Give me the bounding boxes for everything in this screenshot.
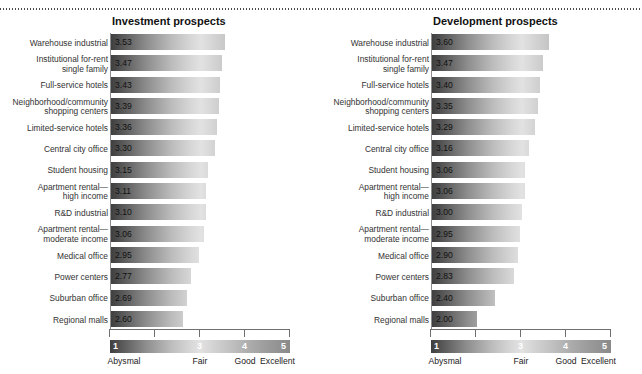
- value-bar: 3.06: [432, 183, 525, 199]
- bar-value-label: 3.40: [436, 80, 453, 90]
- plot-area: Warehouse industrial3.60Institutional fo…: [321, 0, 642, 374]
- category-label: Regional malls: [0, 316, 108, 326]
- category-label: R&D industrial: [279, 209, 429, 219]
- category-label: Full-service hotels: [0, 81, 108, 91]
- category-label: Warehouse industrial: [0, 39, 108, 49]
- bar-value-label: 3.00: [436, 207, 453, 217]
- panel-development-prospects: Development prospects Warehouse industri…: [321, 0, 642, 374]
- bar-value-label: 3.15: [115, 165, 132, 175]
- legend-number: 3: [518, 341, 523, 351]
- value-bar: 3.06: [432, 162, 525, 178]
- value-bar: 2.95: [432, 226, 520, 242]
- scale-label: Excellent: [260, 356, 295, 366]
- value-bar: 3.53: [111, 34, 225, 50]
- value-bar: 2.00: [432, 311, 477, 327]
- legend-number: 4: [242, 341, 247, 351]
- category-label: Apartment rental— high income: [279, 183, 429, 202]
- value-bar: 3.06: [111, 226, 204, 242]
- scale-label: Fair: [514, 356, 529, 366]
- x-axis-tick: [610, 329, 611, 337]
- bar-row: Apartment rental— moderate income2.95: [321, 225, 642, 246]
- category-label: Limited-service hotels: [0, 124, 108, 134]
- bar-value-label: 2.95: [436, 229, 453, 239]
- bar-row: Power centers2.83: [321, 267, 642, 288]
- bar-value-label: 3.06: [436, 186, 453, 196]
- bar-value-label: 3.11: [115, 186, 131, 196]
- x-axis-tick: [289, 329, 290, 337]
- category-label: Central city office: [0, 145, 108, 155]
- bar-row: Central city office3.16: [321, 139, 642, 160]
- category-label: Institutional for-rent single family: [0, 55, 108, 74]
- bar-row: Regional malls2.00: [321, 310, 642, 331]
- value-bar: 2.60: [111, 311, 183, 327]
- category-label: Power centers: [279, 273, 429, 283]
- x-axis-line: [110, 329, 290, 330]
- bar-row: Neighborhood/community shopping centers3…: [321, 97, 642, 118]
- value-bar: 2.95: [111, 247, 199, 263]
- category-label: Apartment rental— high income: [0, 183, 108, 202]
- legend-number: 1: [434, 341, 439, 351]
- value-bar: 3.36: [111, 119, 217, 135]
- bar-value-label: 2.40: [436, 293, 453, 303]
- bar-value-label: 3.47: [115, 58, 132, 68]
- bar-value-label: 3.53: [115, 37, 132, 47]
- value-bar: 3.16: [432, 140, 529, 156]
- bar-rows: Warehouse industrial3.60Institutional fo…: [321, 33, 642, 331]
- category-label: Neighborhood/community shopping centers: [0, 98, 108, 117]
- category-label: Apartment rental— moderate income: [279, 226, 429, 245]
- category-label: Apartment rental— moderate income: [0, 226, 108, 245]
- bar-value-label: 3.10: [115, 207, 132, 217]
- legend-number: 3: [197, 341, 202, 351]
- bar-value-label: 2.00: [436, 314, 453, 324]
- value-bar: 3.15: [111, 162, 208, 178]
- bar-row: Full-service hotels3.40: [321, 76, 642, 97]
- x-axis-tick: [244, 329, 245, 337]
- value-bar: 3.47: [432, 55, 543, 71]
- bar-value-label: 3.06: [115, 229, 132, 239]
- scale-labels: AbysmalFairGoodExcellent: [0, 356, 321, 368]
- x-axis-tick: [430, 329, 431, 337]
- scale-gradient-legend: 1345: [431, 340, 611, 353]
- bar-row: Apartment rental— moderate income3.06: [0, 225, 321, 246]
- bar-row: Neighborhood/community shopping centers3…: [0, 97, 321, 118]
- bar-row: Apartment rental— high income3.11: [0, 182, 321, 203]
- category-label: Student housing: [0, 167, 108, 177]
- bar-value-label: 2.77: [115, 271, 132, 281]
- scale-label: Good: [234, 356, 255, 366]
- x-axis-tick: [475, 329, 476, 337]
- scale-label: Excellent: [581, 356, 616, 366]
- category-label: Limited-service hotels: [279, 124, 429, 134]
- value-bar: 3.47: [111, 55, 222, 71]
- bar-rows: Warehouse industrial3.53Institutional fo…: [0, 33, 321, 331]
- value-bar: 3.11: [111, 183, 206, 199]
- category-label: Central city office: [279, 145, 429, 155]
- x-axis-line: [431, 329, 611, 330]
- category-label: Warehouse industrial: [279, 39, 429, 49]
- bar-value-label: 3.35: [436, 101, 453, 111]
- x-axis-tick: [154, 329, 155, 337]
- bar-row: R&D industrial3.00: [321, 203, 642, 224]
- bar-value-label: 2.83: [436, 271, 453, 281]
- bar-row: Medical office2.95: [0, 246, 321, 267]
- category-label: Power centers: [0, 273, 108, 283]
- bar-value-label: 3.43: [115, 80, 132, 90]
- scale-label: Fair: [193, 356, 208, 366]
- bar-value-label: 3.60: [436, 37, 453, 47]
- x-axis-tick: [565, 329, 566, 337]
- bar-value-label: 2.95: [115, 250, 132, 260]
- category-label: Full-service hotels: [279, 81, 429, 91]
- x-axis-tick: [109, 329, 110, 337]
- bar-value-label: 2.90: [436, 250, 453, 260]
- bar-row: Limited-service hotels3.29: [321, 118, 642, 139]
- bar-value-label: 3.36: [115, 122, 132, 132]
- legend-number: 5: [602, 341, 607, 351]
- x-axis-tick: [520, 329, 521, 337]
- bar-row: Suburban office2.69: [0, 289, 321, 310]
- chart-figure: Investment prospects Warehouse industria…: [0, 0, 642, 374]
- category-label: Medical office: [279, 252, 429, 262]
- bar-row: Medical office2.90: [321, 246, 642, 267]
- legend-number: 1: [113, 341, 118, 351]
- value-bar: 3.29: [432, 119, 535, 135]
- bar-row: Limited-service hotels3.36: [0, 118, 321, 139]
- value-bar: 2.69: [111, 290, 187, 306]
